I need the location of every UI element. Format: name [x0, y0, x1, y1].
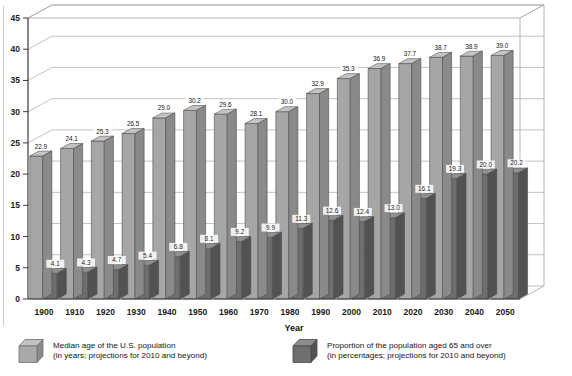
- x-axis-tick-label: 1990: [311, 307, 330, 317]
- y-axis-tick-label: 20: [11, 169, 21, 179]
- value-label-median-age: 35.3: [342, 65, 355, 72]
- value-label-65-and-over: 16.1: [418, 185, 431, 192]
- legend-label-line1: Median age of the U.S. population: [53, 341, 207, 351]
- value-label-median-age: 36.9: [373, 55, 386, 62]
- value-label-median-age: 22.9: [35, 143, 48, 150]
- light-gray-cube-icon: [18, 338, 44, 364]
- y-axis-tick-label: 45: [11, 13, 21, 23]
- value-label-median-age: 39.0: [496, 42, 509, 49]
- value-label-65-and-over: 4.1: [51, 260, 60, 267]
- legend-item-median-age: Median age of the U.S. population (in ye…: [18, 338, 207, 364]
- x-axis-tick-label: 1960: [219, 307, 238, 317]
- x-axis-tick-label: 1930: [127, 307, 146, 317]
- y-axis-tick-label: 5: [15, 263, 20, 273]
- value-label-65-and-over: 9.9: [266, 224, 275, 231]
- x-axis-tick-label: 1900: [35, 307, 54, 317]
- bar-group: [30, 51, 528, 299]
- value-label-median-age: 30.2: [188, 97, 201, 104]
- bar-chart-plot: 05101520253035404539.020.238.920.038.719…: [0, 0, 572, 336]
- y-axis-tick-label: 35: [11, 75, 21, 85]
- x-axis-tick-label: 2030: [434, 307, 453, 317]
- value-label-median-age: 26.5: [127, 120, 140, 127]
- value-label-median-age: 37.7: [404, 50, 417, 57]
- x-axis-tick-label: 2010: [373, 307, 392, 317]
- value-label-median-age: 38.7: [434, 44, 447, 51]
- y-axis-tick-label: 10: [11, 232, 21, 242]
- x-axis-title: Year: [284, 323, 304, 333]
- value-label-median-age: 30.0: [281, 98, 294, 105]
- value-label-65-and-over: 9.2: [235, 228, 244, 235]
- legend-label-line2: (in years; projections for 2010 and beyo…: [53, 351, 207, 361]
- value-label-65-and-over: 19.3: [449, 165, 462, 172]
- x-axis-tick-label: 1910: [65, 307, 84, 317]
- y-axis-tick-label: 30: [11, 107, 21, 117]
- legend-label-line2: (in percentages; projections for 2010 an…: [327, 351, 506, 361]
- value-label-65-and-over: 11.3: [295, 215, 307, 222]
- legend-label-line1: Proportion of the population aged 65 and…: [327, 341, 506, 351]
- value-label-median-age: 29.0: [158, 104, 171, 111]
- chart-legend: Median age of the U.S. population (in ye…: [0, 336, 572, 376]
- value-label-65-and-over: 8.1: [205, 235, 214, 242]
- y-axis-tick-label: 15: [11, 200, 21, 210]
- value-label-median-age: 25.3: [96, 128, 109, 135]
- x-axis-tick-label: 2050: [496, 307, 515, 317]
- legend-label-median-age: Median age of the U.S. population (in ye…: [53, 338, 207, 362]
- value-label-65-and-over: 20.2: [510, 159, 523, 166]
- x-axis-tick-label: 2000: [342, 307, 361, 317]
- value-label-median-age: 29.6: [219, 101, 232, 108]
- plot-ceiling: [28, 5, 544, 18]
- x-axis-tick-labels: 1900191019201930194019501960197019801990…: [35, 307, 515, 317]
- value-label-65-and-over: 4.7: [112, 256, 121, 263]
- value-label-median-age: 28.1: [250, 110, 263, 117]
- x-axis-tick-label: 1950: [188, 307, 207, 317]
- value-label-65-and-over: 5.4: [143, 252, 152, 259]
- y-axis-tick-label: 0: [15, 294, 20, 304]
- value-label-median-age: 32.9: [311, 80, 324, 87]
- value-label-65-and-over: 20.0: [480, 161, 493, 168]
- x-axis-tick-label: 1920: [96, 307, 115, 317]
- value-label-65-and-over: 6.8: [174, 243, 183, 250]
- y-axis-tick-label: 25: [11, 138, 21, 148]
- x-axis-tick-label: 2040: [465, 307, 484, 317]
- chart-container: 05101520253035404539.020.238.920.038.719…: [0, 0, 572, 376]
- bar-median-age[interactable]: [30, 151, 52, 299]
- value-label-median-age: 38.9: [465, 43, 478, 50]
- x-axis-tick-label: 1970: [250, 307, 269, 317]
- dark-gray-cube-icon: [292, 338, 318, 364]
- value-label-65-and-over: 13.0: [387, 204, 400, 211]
- legend-item-65-and-over: Proportion of the population aged 65 and…: [292, 338, 506, 364]
- value-label-65-and-over: 4.3: [82, 259, 91, 266]
- x-axis-tick-label: 2020: [404, 307, 423, 317]
- value-label-median-age: 24.1: [65, 135, 78, 142]
- x-axis-tick-label: 1980: [281, 307, 300, 317]
- x-axis-tick-label: 1940: [158, 307, 177, 317]
- y-axis-tick-label: 40: [11, 44, 21, 54]
- value-label-65-and-over: 12.4: [357, 208, 370, 215]
- legend-label-65-and-over: Proportion of the population aged 65 and…: [327, 338, 506, 362]
- value-label-65-and-over: 12.6: [326, 207, 339, 214]
